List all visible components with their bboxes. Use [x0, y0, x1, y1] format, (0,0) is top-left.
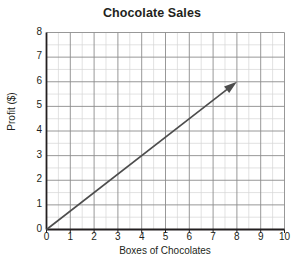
x-tick-label: 6 — [179, 231, 199, 242]
x-tick-label: 1 — [60, 231, 80, 242]
x-tick-label: 7 — [203, 231, 223, 242]
x-tick-label: 4 — [132, 231, 152, 242]
x-tick-label: 5 — [156, 231, 176, 242]
plot-area — [0, 0, 304, 264]
y-tick-label: 4 — [24, 124, 42, 135]
y-tick-label: 3 — [24, 149, 42, 160]
y-tick-label: 0 — [24, 223, 42, 234]
x-tick-label: 10 — [275, 231, 295, 242]
chart-container: Chocolate Sales Profit ($) Boxes of Choc… — [0, 0, 304, 264]
x-tick-label: 3 — [108, 231, 128, 242]
y-tick-label: 6 — [24, 75, 42, 86]
y-tick-label: 7 — [24, 50, 42, 61]
y-tick-label: 1 — [24, 198, 42, 209]
y-tick-label: 8 — [24, 26, 42, 37]
x-tick-label: 9 — [251, 231, 271, 242]
x-tick-label: 8 — [227, 231, 247, 242]
y-tick-label: 5 — [24, 99, 42, 110]
y-tick-label: 2 — [24, 173, 42, 184]
x-tick-label: 2 — [84, 231, 104, 242]
